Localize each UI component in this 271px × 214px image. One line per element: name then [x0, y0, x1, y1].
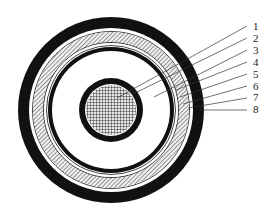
cable-cross-section-diagram: 12345678 [0, 0, 271, 214]
layer-label-2: 2 [253, 32, 259, 44]
layer-label-4: 4 [253, 56, 259, 68]
layer-label-1: 1 [253, 20, 259, 32]
layer-label-8: 8 [253, 103, 259, 115]
layer-label-3: 3 [253, 44, 259, 56]
layer-labels: 12345678 [253, 20, 259, 115]
layer-label-7: 7 [253, 91, 259, 103]
layer-label-5: 5 [253, 68, 259, 80]
cable-layers [18, 17, 204, 203]
conductor-layer [86, 85, 136, 135]
